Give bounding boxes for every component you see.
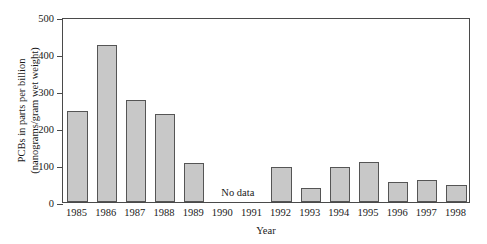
bar — [271, 167, 291, 202]
y-axis-tick-label: 200 — [38, 125, 54, 136]
y-axis-tick-mark — [57, 130, 63, 131]
plot-area: 0100200300400500 No data — [62, 18, 470, 203]
x-axis-tick-label: 1985 — [66, 208, 87, 219]
x-axis-tick-label: 1998 — [445, 208, 466, 219]
bar — [446, 185, 466, 202]
y-axis-tick-mark — [57, 204, 63, 205]
y-axis-tick-label: 500 — [38, 14, 54, 25]
x-axis-tick-label: 1992 — [270, 208, 291, 219]
x-axis-tick-label: 1994 — [328, 208, 349, 219]
x-axis-tick-label: 1996 — [387, 208, 408, 219]
x-axis-tick-label: 1990 — [212, 208, 233, 219]
y-axis-tick-label: 100 — [38, 162, 54, 173]
bar — [417, 180, 437, 202]
no-data-annotation: No data — [221, 188, 254, 199]
bar — [126, 100, 146, 202]
y-axis-tick-mark — [57, 56, 63, 57]
x-axis-tick-label: 1991 — [241, 208, 262, 219]
y-axis-tick-label: 400 — [38, 51, 54, 62]
bar — [388, 182, 408, 202]
y-axis-tick-mark — [57, 167, 63, 168]
bar — [155, 114, 175, 202]
x-axis-tick-label: 1989 — [183, 208, 204, 219]
x-axis-title: Year — [256, 226, 275, 237]
x-axis-tick-label: 1986 — [95, 208, 116, 219]
bar — [97, 45, 117, 202]
y-axis-title-line-1: PCBs in parts per billion — [15, 59, 28, 163]
y-axis-tick-mark — [57, 19, 63, 20]
y-axis-title: PCBs in parts per billion (nanograms/gra… — [14, 18, 42, 203]
y-axis-tick-label: 0 — [49, 199, 54, 210]
y-axis-tick-label: 300 — [38, 88, 54, 99]
y-axis-tick-mark — [57, 93, 63, 94]
x-axis-tick-label: 1997 — [416, 208, 437, 219]
bar — [359, 162, 379, 202]
x-axis-tick-label: 1987 — [124, 208, 145, 219]
bar — [67, 111, 87, 202]
bar — [301, 188, 321, 202]
x-axis-tick-label: 1995 — [358, 208, 379, 219]
bar — [184, 163, 204, 202]
x-axis-tick-label: 1988 — [154, 208, 175, 219]
bar — [330, 167, 350, 202]
x-axis-tick-label: 1993 — [299, 208, 320, 219]
pcb-bar-chart-figure: PCBs in parts per billion (nanograms/gra… — [0, 0, 487, 244]
y-axis-title-line-2: (nanograms/gram wet weight) — [28, 47, 41, 174]
